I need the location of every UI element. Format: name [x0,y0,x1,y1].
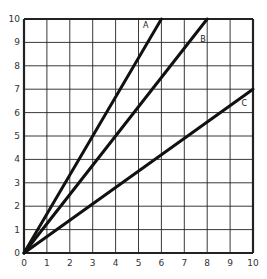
y-tick-label: 3 [14,178,20,188]
y-tick-label: 10 [9,14,21,24]
x-tick-label: 3 [90,258,96,268]
y-tick-label: 0 [14,248,20,258]
line-chart: ABC 012345678910 012345678910 [0,0,267,279]
x-axis-ticks: 012345678910 [21,258,259,268]
y-tick-label: 6 [14,108,20,118]
x-tick-label: 8 [204,258,210,268]
y-tick-label: 4 [14,154,20,164]
x-tick-label: 1 [44,258,50,268]
x-tick-label: 10 [247,258,259,268]
x-tick-label: 6 [159,258,165,268]
series-label-b: B [200,35,206,44]
y-tick-label: 2 [14,201,20,211]
y-tick-label: 9 [14,37,20,47]
x-tick-label: 2 [67,258,73,268]
y-tick-label: 5 [14,131,20,141]
x-tick-label: 0 [21,258,27,268]
y-tick-label: 8 [14,61,20,71]
y-axis-ticks: 012345678910 [9,14,21,258]
x-tick-label: 4 [113,258,119,268]
x-tick-label: 7 [181,258,187,268]
grid-lines [24,19,253,253]
y-tick-label: 7 [14,84,20,94]
series-label-c: C [242,99,248,108]
y-tick-label: 1 [14,225,20,235]
x-tick-label: 5 [136,258,142,268]
x-tick-label: 9 [227,258,233,268]
series-label-a: A [143,21,149,30]
